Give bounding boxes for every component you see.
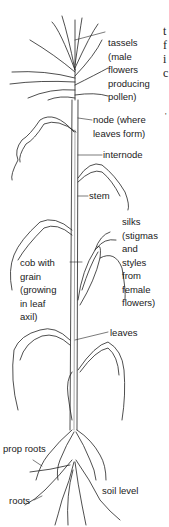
- label-line: pollen): [108, 90, 150, 104]
- label-line: axil): [20, 310, 56, 324]
- edge-char: i: [163, 52, 168, 66]
- label-cob: cob with grain (growing in leaf axil): [20, 256, 56, 324]
- label-line: and: [122, 242, 158, 256]
- label-line: producing: [108, 77, 150, 91]
- label-line: node (where: [93, 113, 146, 127]
- label-line: leaves form): [93, 127, 146, 141]
- maize-diagram: tassels (male flowers producing pollen) …: [0, 0, 169, 527]
- cob-drawing: [78, 232, 125, 305]
- label-line: grain: [20, 270, 56, 284]
- label-stem: stem: [89, 189, 110, 203]
- label-prop-roots: prop roots: [3, 442, 46, 456]
- label-line: styles: [122, 256, 158, 270]
- label-line: cob with: [20, 256, 56, 270]
- label-line: flowers: [108, 63, 150, 77]
- label-roots: roots: [9, 494, 30, 508]
- label-line: in leaf: [20, 297, 56, 311]
- edge-char: t: [163, 24, 168, 38]
- edge-char: f: [163, 38, 168, 52]
- label-soil-level: soil level: [102, 484, 138, 498]
- label-line: (growing: [20, 283, 56, 297]
- label-line: female: [122, 283, 158, 297]
- label-line: (male: [108, 50, 150, 64]
- label-silks: silks (stigmas and styles from female fl…: [122, 215, 158, 310]
- edge-char: c: [163, 66, 168, 80]
- edge-text-fragment: ': [165, 110, 166, 124]
- label-line: silks: [122, 215, 158, 229]
- label-line: from: [122, 269, 158, 283]
- label-tassels: tassels (male flowers producing pollen): [108, 36, 150, 104]
- label-internode: internode: [103, 148, 143, 162]
- label-line: flowers): [122, 296, 158, 310]
- label-leaves: leaves: [110, 326, 137, 340]
- tassel-drawing: [10, 16, 108, 100]
- label-node: node (where leaves form): [93, 113, 146, 140]
- edge-text-fragment: t f i c: [163, 24, 168, 80]
- label-line: tassels: [108, 36, 150, 50]
- label-line: (stigmas: [122, 229, 158, 243]
- stem-drawing: [70, 100, 78, 430]
